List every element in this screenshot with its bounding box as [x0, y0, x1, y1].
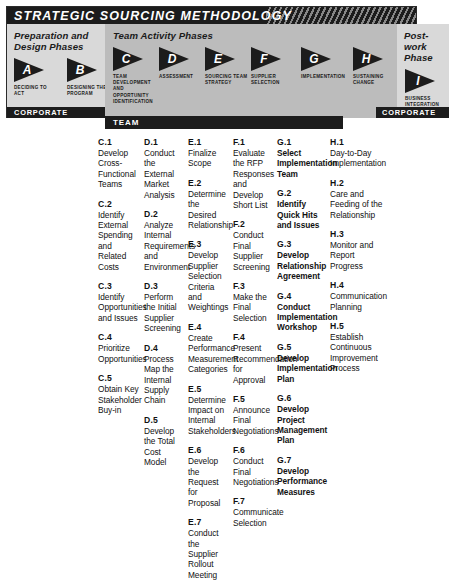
task-item[interactable]: G.6Develop Project Management Plan [277, 393, 326, 446]
band-post-footer: CORPORATE [376, 107, 449, 118]
task-text: Conduct Implementation Workshop [277, 302, 326, 333]
phase-e-letter: E [210, 52, 226, 67]
task-item[interactable]: H.3Monitor and Report Progress [330, 229, 388, 271]
phase-i[interactable]: I BUSINESS INTEGRATION [405, 69, 449, 108]
task-item[interactable]: D.1Conduct the External Market Analysis [144, 137, 184, 200]
task-id: D.2 [144, 209, 184, 219]
task-item[interactable]: E.5Determine Impact on Internal Stakehol… [188, 384, 229, 437]
task-item[interactable]: F.1Evaluate the RFP Responses and Develo… [233, 137, 273, 210]
band-post-work: Post-work Phase I BUSINESS INTEGRATION C… [397, 24, 449, 118]
band-preparation-arrows: A DECIDING TO ACT B DESIGNING THE PROGRA… [7, 52, 105, 97]
task-item[interactable]: E.7Conduct the Supplier Rollout Meeting [188, 517, 229, 580]
task-item[interactable]: C.5Obtain Key Stakeholder Buy-in [98, 373, 140, 415]
task-item[interactable]: G.2Identify Quick Hits and Issues [277, 188, 326, 230]
band-preparation-footer: CORPORATE [7, 107, 105, 118]
phase-g[interactable]: G IMPLEMENTATION [301, 47, 345, 105]
phase-e[interactable]: E SOURCING TEAM STRATEGY [205, 47, 249, 105]
task-item[interactable]: G.7Develop Performance Measures [277, 455, 326, 497]
task-item[interactable]: D.4Process Map the Internal Supply Chain [144, 343, 184, 406]
task-id: E.4 [188, 322, 229, 332]
task-item[interactable]: D.3Perform the Initial Supplier Screenin… [144, 281, 184, 334]
task-id: G.4 [277, 291, 326, 301]
task-column-e: E.1Finalize Scope E.2Determine the Desir… [188, 137, 233, 584]
task-item[interactable]: F.5Announce Final Negotiations [233, 394, 273, 436]
phase-c-arrow-icon: C [113, 47, 147, 72]
phase-e-label: SOURCING TEAM STRATEGY [205, 74, 249, 86]
task-id: F.5 [233, 394, 273, 404]
phase-diagram: STRATEGIC SOURCING METHODOLOGY Preparati… [6, 6, 417, 118]
phase-d[interactable]: D ASSESSMENT [159, 47, 203, 105]
task-item[interactable]: E.2Determine the Desired Relationship [188, 178, 229, 231]
task-item[interactable]: D.5Develop the Total Cost Model [144, 415, 184, 468]
task-item[interactable]: F.4Present Recommendation for Approval [233, 332, 273, 385]
task-id: G.3 [277, 239, 326, 249]
task-item[interactable]: H.1Day-to-Day Implementation [330, 137, 388, 169]
task-id: F.6 [233, 445, 273, 455]
task-item[interactable]: E.4Create Performance Measurement Catego… [188, 322, 229, 375]
phase-f-letter: F [256, 52, 272, 67]
task-id: F.4 [233, 332, 273, 342]
task-text: Make the Final Selection [233, 292, 273, 323]
task-id: F.7 [233, 496, 273, 506]
phase-bands: Preparation and Design Phases A DECIDING… [7, 24, 416, 118]
task-text: Evaluate the RFP Responses and Develop S… [233, 148, 273, 210]
task-text: Finalize Scope [188, 148, 229, 169]
band-post-heading: Post-work Phase [397, 24, 449, 63]
task-column-h: H.1Day-to-Day Implementation H.2Care and… [330, 137, 392, 584]
task-text: Identify Quick Hits and Issues [277, 199, 326, 230]
task-text: Analyze Internal Requirements and Enviro… [144, 220, 184, 272]
diagram-title: STRATEGIC SOURCING METHODOLOGY [7, 9, 292, 23]
phase-g-label: IMPLEMENTATION [301, 74, 345, 80]
task-text: Develop Cross-Functional Teams [98, 148, 140, 190]
task-item[interactable]: D.2Analyze Internal Requirements and Env… [144, 209, 184, 272]
task-item[interactable]: H.4Communication Planning [330, 280, 388, 312]
task-column-d: D.1Conduct the External Market Analysis … [144, 137, 188, 584]
task-item[interactable]: E.6Develop the Request for Proposal [188, 445, 229, 508]
task-item[interactable]: H.2Care and Feeding of the Relationship [330, 178, 388, 220]
task-text: Establish Continuous Improvement Process [330, 332, 388, 374]
task-text: Develop Implementation Plan [277, 353, 326, 384]
band-post-arrows: I BUSINESS INTEGRATION [397, 63, 449, 108]
phase-h-letter: H [358, 52, 374, 67]
band-preparation: Preparation and Design Phases A DECIDING… [7, 24, 105, 118]
phase-a[interactable]: A DECIDING TO ACT [14, 58, 58, 97]
task-id: C.4 [98, 332, 140, 342]
task-id: G.1 [277, 137, 326, 147]
phase-h[interactable]: H SUSTAINING CHANGE [353, 47, 397, 105]
phase-g-letter: G [306, 52, 322, 67]
task-item[interactable]: C.1Develop Cross-Functional Teams [98, 137, 140, 190]
phase-a-arrow-icon: A [14, 58, 48, 83]
task-item[interactable]: F.2Conduct Final Supplier Screening [233, 219, 273, 272]
task-text: Identify Opportunities and Issues [98, 292, 140, 323]
task-column-f: F.1Evaluate the RFP Responses and Develo… [233, 137, 277, 584]
task-item[interactable]: H.5Establish Continuous Improvement Proc… [330, 321, 388, 374]
task-item[interactable]: G.3Develop Relationship Agreement [277, 239, 326, 281]
phase-f[interactable]: F SUPPLIER SELECTION [251, 47, 295, 105]
task-text: Care and Feeding of the Relationship [330, 189, 388, 220]
task-item[interactable]: G.1Select Implementation Team [277, 137, 326, 179]
task-item[interactable]: F.7Communicate Selection [233, 496, 273, 528]
task-item[interactable]: E.1Finalize Scope [188, 137, 229, 169]
band-team-activity: Team Activity Phases C TEAM DEVELOPMENT … [105, 24, 397, 118]
task-id: G.5 [277, 342, 326, 352]
task-item[interactable]: F.6Conduct Final Negotiations [233, 445, 273, 487]
task-id: E.2 [188, 178, 229, 188]
phase-i-arrow-icon: I [405, 69, 439, 94]
task-item[interactable]: C.2Identify External Spending and Relate… [98, 199, 140, 272]
task-item[interactable]: G.4Conduct Implementation Workshop [277, 291, 326, 333]
methodology-chart: STRATEGIC SOURCING METHODOLOGY Preparati… [0, 6, 423, 582]
task-id: E.6 [188, 445, 229, 455]
task-columns: C.1Develop Cross-Functional Teams C.2Ide… [0, 137, 423, 584]
band-team-heading: Team Activity Phases [105, 24, 397, 41]
task-text: Identify External Spending and Related C… [98, 210, 140, 272]
task-item[interactable]: E.3Develop Supplier Selection Criteria a… [188, 239, 229, 312]
task-item[interactable]: C.4Prioritize Opportunities [98, 332, 140, 364]
task-text: Conduct Final Negotiations [233, 456, 273, 487]
task-item[interactable]: G.5Develop Implementation Plan [277, 342, 326, 384]
task-text: Announce Final Negotiations [233, 405, 273, 436]
phase-c[interactable]: C TEAM DEVELOPMENT AND OPPORTUNITY IDENT… [113, 47, 157, 105]
task-text: Develop Project Management Plan [277, 404, 326, 446]
task-text: Day-to-Day Implementation [330, 148, 388, 169]
task-item[interactable]: C.3Identify Opportunities and Issues [98, 281, 140, 323]
task-item[interactable]: F.3Make the Final Selection [233, 281, 273, 323]
